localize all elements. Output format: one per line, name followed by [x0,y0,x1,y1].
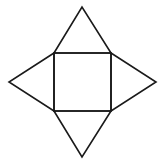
square-base [54,53,111,111]
triangle-bottom [54,111,111,157]
pyramid-net-diagram [0,0,164,168]
triangle-left [9,53,54,111]
triangle-right [111,53,156,111]
triangle-top [54,7,111,53]
